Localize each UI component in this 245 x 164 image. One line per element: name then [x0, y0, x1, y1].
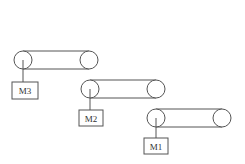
motor-label-m3: M3 — [19, 86, 32, 96]
motor-label-m1: M1 — [150, 142, 163, 152]
pulley-right — [147, 80, 165, 98]
pulley-right — [213, 109, 231, 127]
motor-label-m2: M2 — [85, 114, 98, 124]
pulley-right — [80, 51, 98, 69]
conveyor-diagram: M3 M2 M1 — [0, 0, 245, 164]
